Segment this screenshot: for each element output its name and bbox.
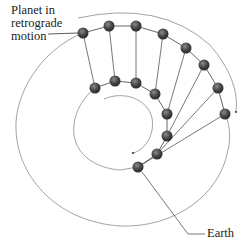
earth-ball	[162, 131, 173, 142]
planet-ball	[220, 109, 231, 120]
earth-ball	[150, 89, 161, 100]
earth-ball	[90, 83, 101, 94]
planet-ball	[199, 60, 210, 71]
earth-ball	[131, 78, 142, 89]
planet-ball	[104, 21, 115, 32]
earth-orbit	[74, 88, 138, 170]
planet-ball	[181, 43, 192, 54]
earth-ball	[133, 162, 144, 173]
planet-label-line-3: motion	[11, 30, 62, 43]
planet-ball	[158, 29, 169, 40]
planet-ball	[78, 28, 89, 39]
inner-arc	[104, 96, 153, 153]
earth-label: Earth	[207, 227, 234, 240]
planet-label: Planet in retrograde motion	[11, 4, 62, 43]
earth-ball	[152, 149, 163, 160]
earth-positions	[90, 76, 173, 173]
planet-orbit	[16, 33, 230, 226]
earth-ball	[162, 109, 173, 120]
planet-ball	[131, 21, 142, 32]
planet-ball	[213, 83, 224, 94]
earth-ball	[110, 76, 121, 87]
